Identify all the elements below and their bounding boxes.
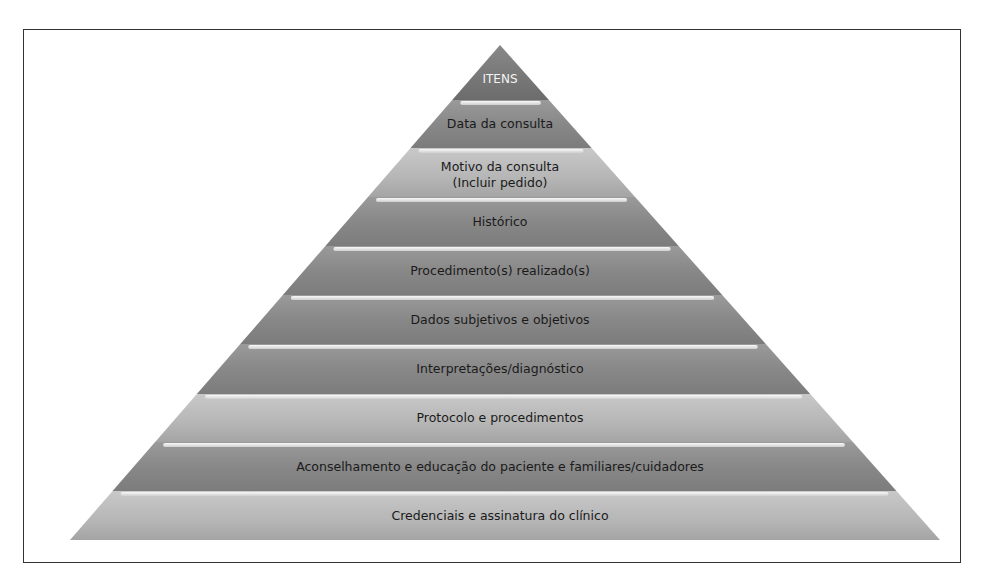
pyramid-layer: Motivo da consulta(Incluir pedido) (368, 148, 635, 197)
layer-label: Interpretações/diagnóstico (416, 361, 583, 376)
pyramid-layer: Dados subjetivos e objetivos (240, 295, 766, 344)
layer-highlight (460, 101, 541, 105)
pyramid-layer: Histórico (325, 197, 678, 246)
pyramid-layer: Credenciais e assinatura do clínico (70, 491, 940, 540)
layer-highlight (419, 149, 584, 153)
layer-highlight (333, 247, 670, 251)
pyramid-layer: ITENS (452, 45, 549, 100)
layer-label: Histórico (472, 214, 527, 229)
layer-label: Procedimento(s) realizado(s) (410, 263, 590, 278)
pyramid-layer: Aconselhamento e educação do paciente e … (113, 442, 897, 491)
layer-label: Data da consulta (447, 116, 553, 131)
layer-highlight (163, 443, 845, 447)
pyramid-diagram: ITENSData da consultaMotivo da consulta(… (0, 0, 982, 579)
layer-highlight (205, 395, 802, 399)
layer-highlight (121, 492, 889, 496)
layer-highlight (291, 296, 714, 300)
layer-label: (Incluir pedido) (453, 175, 548, 190)
layer-label: Dados subjetivos e objetivos (410, 312, 589, 327)
pyramid-layer: Interpretações/diagnóstico (197, 344, 810, 394)
pyramid-layer: Procedimento(s) realizado(s) (283, 246, 722, 295)
layer-label: Credenciais e assinatura do clínico (391, 508, 608, 523)
layer-highlight (248, 345, 758, 349)
layer-highlight (376, 198, 627, 202)
layer-label: Aconselhamento e educação do paciente e … (296, 459, 704, 474)
pyramid-layer: Data da consulta (411, 100, 592, 148)
pyramid-layer: Protocolo e procedimentos (155, 394, 853, 442)
layer-label: ITENS (482, 72, 517, 86)
layer-label: Protocolo e procedimentos (417, 410, 584, 425)
layer-label: Motivo da consulta (441, 159, 559, 174)
